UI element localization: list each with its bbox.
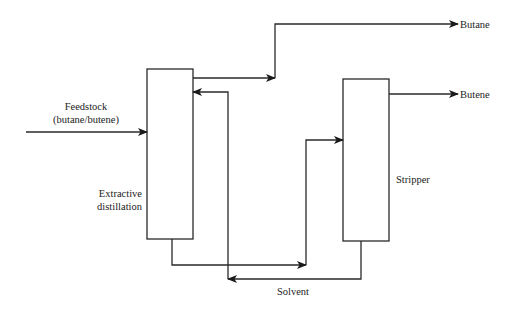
solvent-return-line [228, 241, 361, 279]
solvent-recycle-line [193, 92, 228, 279]
stripper-column [343, 79, 389, 241]
solvent-label: Solvent [277, 286, 309, 297]
extractive-distillation-column [147, 69, 193, 239]
butane-label: Butane [460, 19, 490, 30]
process-flow-diagram: Feedstock (butane/butene) Extractive dis… [0, 0, 510, 313]
feed-label-line2: (butane/butene) [53, 114, 119, 126]
extractive-label-line2: distillation [97, 201, 143, 212]
butane-product-line [275, 24, 458, 78]
feed-label-line1: Feedstock [65, 101, 108, 112]
stripper-label: Stripper [396, 174, 430, 185]
butene-label: Butene [460, 89, 490, 100]
rich-solvent-line [172, 239, 306, 265]
stripper-feed-line [306, 140, 343, 265]
extractive-label-line1: Extractive [99, 188, 142, 199]
